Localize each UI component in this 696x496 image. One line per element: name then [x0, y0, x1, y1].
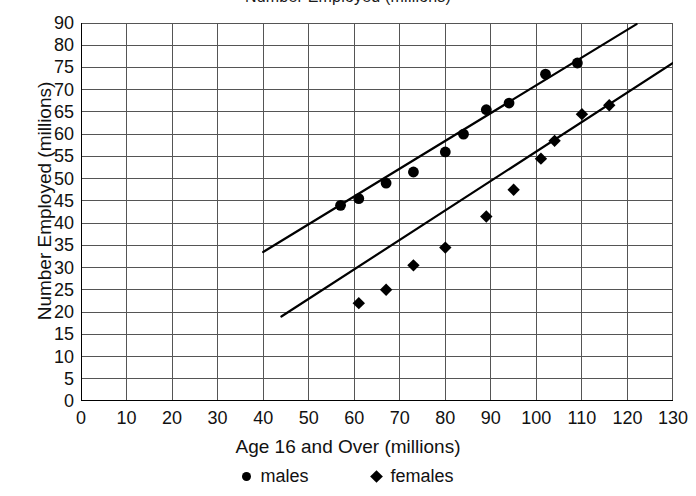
circle-marker-icon [242, 472, 251, 481]
trendline-males [263, 24, 636, 252]
data-point-males [440, 147, 451, 158]
data-point-females [507, 184, 519, 196]
data-point-males [408, 167, 419, 178]
x-tick-label: 70 [377, 409, 423, 427]
y-tick-label: 40 [38, 214, 74, 232]
x-tick-label: 30 [195, 409, 241, 427]
y-tick-label: 55 [38, 147, 74, 165]
x-tick-label: 130 [650, 409, 696, 427]
y-tick-label: 35 [38, 236, 74, 254]
trendline-females [281, 63, 673, 316]
data-point-males [504, 98, 515, 109]
x-tick-label: 0 [58, 409, 104, 427]
y-tick-label: 0 [38, 392, 74, 410]
data-point-females [439, 241, 451, 253]
y-tick-label: 25 [38, 281, 74, 299]
plot-area [81, 23, 673, 401]
data-point-males [335, 200, 346, 211]
y-tick-label: 90 [38, 14, 74, 32]
scatter-plot-svg [81, 23, 673, 401]
y-tick-label: 50 [38, 170, 74, 188]
diamond-marker-icon [371, 470, 384, 483]
y-tick-label: 30 [38, 259, 74, 277]
y-tick-label: 65 [38, 103, 74, 121]
data-point-females [407, 259, 419, 271]
x-tick-label: 100 [513, 409, 559, 427]
y-tick-label: 80 [38, 36, 74, 54]
chart-legend: malesfemales [0, 466, 696, 487]
legend-label: males [260, 466, 308, 487]
x-tick-label: 60 [331, 409, 377, 427]
y-axis-tick-labels: 9080757065605550454035302520151050 [30, 0, 74, 430]
chart-page: Number Employed (millions) Number Employ… [0, 0, 696, 496]
data-point-females [380, 284, 392, 296]
y-tick-label: 75 [38, 58, 74, 76]
x-axis-tick-labels: 0102030405060708090100110120130 [0, 409, 696, 439]
x-tick-label: 10 [104, 409, 150, 427]
x-tick-label: 40 [240, 409, 286, 427]
x-axis-label: Age 16 and Over (millions) [0, 436, 696, 458]
y-tick-label: 60 [38, 125, 74, 143]
data-point-males [540, 69, 551, 80]
x-tick-label: 80 [422, 409, 468, 427]
y-tick-label: 5 [38, 370, 74, 388]
y-tick-label: 10 [38, 348, 74, 366]
data-point-males [381, 178, 392, 189]
x-tick-label: 120 [604, 409, 650, 427]
legend-item-females: females [372, 466, 453, 487]
y-tick-label: 70 [38, 81, 74, 99]
data-point-males [353, 193, 364, 204]
data-point-males [481, 104, 492, 115]
x-tick-label: 20 [149, 409, 195, 427]
x-tick-label: 50 [286, 409, 332, 427]
chart-title: Number Employed (millions) [0, 0, 696, 6]
legend-item-males: males [242, 466, 308, 487]
y-tick-label: 20 [38, 303, 74, 321]
x-tick-label: 90 [468, 409, 514, 427]
data-point-males [458, 129, 469, 140]
legend-label: females [390, 466, 453, 487]
x-tick-label: 110 [559, 409, 605, 427]
y-tick-label: 45 [38, 192, 74, 210]
y-tick-label: 15 [38, 325, 74, 343]
data-point-males [572, 58, 583, 69]
